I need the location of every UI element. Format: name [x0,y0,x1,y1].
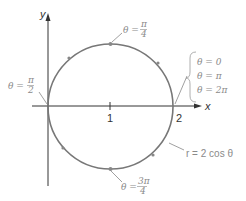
svg-text:3π: 3π [138,176,151,186]
direction-marker [151,153,154,156]
label-theta-2pi: θ = 2π [197,85,228,95]
direction-marker [61,146,64,149]
point-3pi-over-4 [109,167,113,171]
svg-text:4: 4 [139,186,146,196]
tick-label-1: 1 [107,112,113,124]
svg-text:θ =: θ = [8,81,24,91]
svg-text:π: π [140,19,148,29]
svg-text:θ =: θ = [121,182,137,192]
label-theta-pi-over-2: θ = π 2 [8,75,35,95]
svg-text:4: 4 [140,29,147,39]
leader-curve [169,143,184,150]
x-axis [32,104,202,109]
svg-text:π: π [27,75,35,85]
leader-top [112,33,122,42]
svg-text:2: 2 [27,85,34,95]
label-theta-pi-over-4: θ = π 4 [123,19,148,39]
brace [186,52,196,102]
tick-label-2: 2 [176,112,182,124]
label-theta-3pi-over-4: θ = 3π 4 [121,176,151,196]
leader-right [175,76,187,104]
label-theta-0: θ = 0 [197,57,222,67]
point-pi-over-4 [109,42,113,46]
curve-equation-label: r = 2 cos θ [186,148,233,159]
svg-text:θ =: θ = [123,25,139,35]
y-axis-label: y [39,8,47,20]
x-axis-label: x [204,100,211,112]
direction-marker [67,56,70,59]
label-theta-pi: θ = π [197,71,223,81]
leader-left [39,92,47,104]
polar-diagram: y x 1 2 θ = π 4 θ = π 2 θ = 3π 4 θ = 0 θ… [0,0,246,201]
direction-marker [156,61,159,64]
leader-bottom [111,171,122,182]
